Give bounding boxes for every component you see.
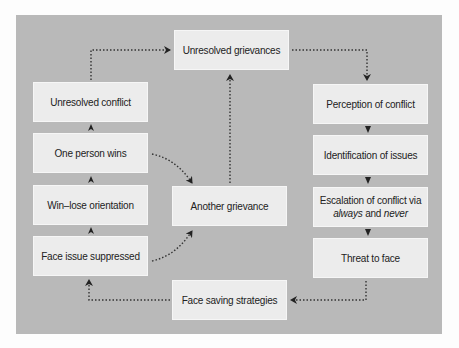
node-win-lose-orientation: Win–lose orientation [33,185,148,225]
node-another-grievance: Another grievance [172,186,287,226]
node-label: Identification of issues [324,149,418,162]
node-one-person-wins: One person wins [33,133,148,173]
node-identification-of-issues: Identification of issues [313,135,428,175]
emphasis-always: always [333,208,362,219]
node-face-issue-suppressed: Face issue suppressed [33,236,148,276]
node-label: Face saving strategies [182,294,278,307]
node-escalation-of-conflict: Escalation of conflict via always and ne… [313,187,428,227]
node-face-saving-strategies: Face saving strategies [172,280,287,320]
node-perception-of-conflict: Perception of conflict [313,84,428,124]
node-unresolved-grievances: Unresolved grievances [174,30,289,70]
conjunction: and [363,208,384,219]
emphasis-never: never [384,208,408,219]
node-label-line2: always and never [333,207,408,220]
node-label: Another grievance [191,200,269,213]
node-label-line1: Escalation of conflict via [320,194,422,207]
node-threat-to-face: Threat to face [313,238,428,278]
arrowhead-up-icon [88,124,94,131]
node-unresolved-conflict: Unresolved conflict [33,82,148,122]
node-label: Perception of conflict [326,98,414,111]
node-label: Win–lose orientation [47,199,134,212]
node-label: Unresolved grievances [183,44,281,57]
node-label: Threat to face [341,252,400,265]
node-label: One person wins [54,147,126,160]
node-label: Unresolved conflict [50,96,131,109]
node-label: Face issue suppressed [41,250,140,263]
